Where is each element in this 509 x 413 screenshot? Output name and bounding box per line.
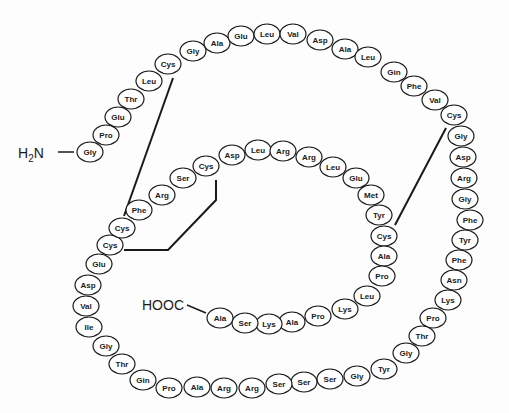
residue-label: Ala	[211, 39, 224, 48]
residue-label: Lys	[262, 320, 276, 329]
residue-label: Arg	[155, 191, 169, 200]
residue-label: Ile	[85, 323, 94, 332]
residue-ser: Ser	[266, 374, 292, 394]
residue-label: Phe	[463, 216, 478, 225]
residue-label: Ser	[239, 319, 252, 328]
residue-label: Leu	[142, 77, 156, 86]
residue-label: Thr	[416, 332, 429, 341]
residue-label: Glu	[234, 32, 247, 41]
residue-label: Leu	[326, 163, 340, 172]
residue-ile: Ile	[76, 317, 102, 337]
residue-label: Phe	[452, 256, 467, 265]
residue-label: Ala	[378, 252, 391, 261]
residue-val: Val	[280, 24, 306, 44]
residue-phe: Phe	[401, 76, 427, 96]
residue-label: Lys	[338, 305, 352, 314]
residue-arg: Arg	[296, 147, 322, 167]
residue-label: Arg	[245, 384, 259, 393]
residue-label: Glu	[349, 174, 362, 183]
residue-phe: Phe	[457, 210, 483, 230]
residue-label: Cys	[103, 241, 118, 250]
residue-cys: Cys	[371, 226, 397, 246]
peptide-diagram: GlyProGluThrLeuCysGlyAlaGluLeuValAspAlaL…	[0, 0, 509, 413]
residue-cys: Cys	[193, 156, 219, 176]
residue-glu: Glu	[228, 26, 254, 46]
c-terminus-bond	[187, 305, 206, 313]
residue-label: Gly	[100, 342, 113, 351]
residue-pro: Pro	[156, 378, 182, 398]
residue-met: Met	[358, 185, 384, 205]
residue-leu: Leu	[136, 71, 162, 91]
residue-label: Cys	[115, 224, 130, 233]
residue-label: Gin	[387, 68, 400, 77]
residue-leu: Leu	[254, 24, 280, 44]
residue-label: Leu	[361, 53, 375, 62]
residue-glu: Glu	[105, 107, 131, 127]
residue-label: Glu	[92, 260, 105, 269]
residue-tyr: Tyr	[366, 205, 392, 225]
residue-thr: Thr	[118, 89, 144, 109]
residue-asn: Asn	[441, 270, 467, 290]
residue-arg: Arg	[239, 378, 265, 398]
residue-glu: Glu	[86, 254, 112, 274]
residue-label: Pro	[426, 314, 439, 323]
residue-thr: Thr	[409, 326, 435, 346]
residue-label: Asp	[455, 153, 470, 162]
residue-label: Phe	[132, 206, 147, 215]
residue-label: Val	[80, 302, 92, 311]
residue-arg: Arg	[270, 141, 296, 161]
residue-tyr: Tyr	[371, 359, 397, 379]
residue-leu: Leu	[320, 157, 346, 177]
residue-pro: Pro	[420, 308, 446, 328]
residue-val: Val	[422, 90, 448, 110]
residue-label: Lys	[441, 296, 455, 305]
residue-phe: Phe	[126, 200, 152, 220]
residue-asp: Asp	[450, 147, 476, 167]
residue-gin: Gin	[130, 370, 156, 390]
residue-label: Leu	[260, 30, 274, 39]
residue-asp: Asp	[307, 30, 333, 50]
residue-label: Leu	[251, 146, 265, 155]
residue-label: Ala	[191, 383, 204, 392]
residue-arg: Arg	[451, 168, 477, 188]
residue-arg: Arg	[149, 185, 175, 205]
residue-label: Asp	[224, 151, 239, 160]
residue-ser: Ser	[170, 168, 196, 188]
residue-label: Tyr	[378, 365, 390, 374]
residue-label: Cys	[199, 162, 214, 171]
residue-cys: Cys	[155, 54, 181, 74]
residue-ala: Ala	[204, 33, 230, 53]
residue-label: Cys	[377, 232, 392, 241]
residue-ser: Ser	[291, 372, 317, 392]
residue-val: Val	[73, 296, 99, 316]
residue-gly: Gly	[77, 142, 103, 162]
residue-ala: Ala	[184, 377, 210, 397]
residue-gly: Gly	[180, 41, 206, 61]
residue-label: Gin	[136, 376, 149, 385]
residue-label: Cys	[161, 60, 176, 69]
residue-label: Cys	[447, 111, 462, 120]
residue-label: Arg	[457, 174, 471, 183]
disulfide-bond	[395, 128, 446, 225]
residue-label: Tyr	[459, 236, 471, 245]
residue-label: Thr	[125, 95, 138, 104]
residue-pro: Pro	[305, 306, 331, 326]
residue-gly: Gly	[393, 343, 419, 363]
residue-gly: Gly	[93, 336, 119, 356]
residue-label: Glu	[111, 113, 124, 122]
residue-leu: Leu	[354, 286, 380, 306]
residue-label: Ala	[339, 45, 352, 54]
residue-chain: GlyProGluThrLeuCysGlyAlaGluLeuValAspAlaL…	[73, 24, 483, 398]
residue-lys: Lys	[435, 290, 461, 310]
residue-leu: Leu	[355, 47, 381, 67]
residue-label: Pro	[99, 131, 112, 140]
residue-ala: Ala	[207, 308, 233, 328]
residue-ser: Ser	[317, 369, 343, 389]
residue-leu: Leu	[245, 140, 271, 160]
residue-label: Ser	[324, 375, 337, 384]
residue-phe: Phe	[446, 250, 472, 270]
residue-label: Gly	[455, 132, 468, 141]
residue-label: Pro	[311, 312, 324, 321]
residue-asp: Asp	[219, 145, 245, 165]
residue-tyr: Tyr	[452, 230, 478, 250]
